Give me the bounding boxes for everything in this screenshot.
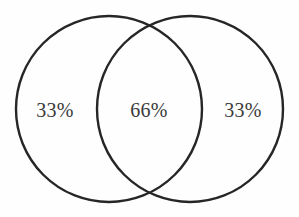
venn-diagram-figure: 33% 66% 33% [0,0,299,217]
left-set-value-label: 33% [36,99,73,122]
intersection-value-label: 66% [130,99,167,122]
right-set-value-label: 33% [224,99,261,122]
